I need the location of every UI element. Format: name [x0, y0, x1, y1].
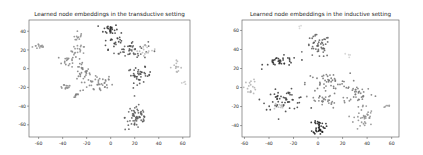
x-tick-label: -60 — [241, 141, 249, 146]
x-tick-label: 20 — [132, 141, 138, 146]
x-tick-label: 0 — [317, 141, 320, 146]
inductive-chart: Learned node embeddings in the inductive… — [212, 0, 423, 155]
y-tick-label: 40 — [233, 47, 239, 52]
y-tick-label: -60 — [18, 122, 26, 127]
x-tick-label: 60 — [389, 141, 395, 146]
x-tick-label: 60 — [180, 141, 186, 146]
x-tick-label: -20 — [290, 141, 298, 146]
y-tick-label: 40 — [20, 29, 26, 34]
x-tick-label: 40 — [156, 141, 162, 146]
inductive-scatter-plot: Learned node embeddings in the inductive… — [212, 0, 423, 155]
axes-frame — [29, 20, 190, 137]
chart-title: Learned node embeddings in the inductive… — [250, 11, 392, 18]
data-points — [243, 25, 390, 135]
y-tick-label: -20 — [18, 85, 26, 90]
y-tick-label: 0 — [236, 85, 239, 90]
chart-title: Learned node embeddings in the transduct… — [34, 11, 185, 18]
x-tick-label: 0 — [109, 141, 112, 146]
transductive-chart: Learned node embeddings in the transduct… — [0, 0, 212, 155]
x-tick-label: -40 — [265, 141, 273, 146]
y-tick-label: -40 — [231, 123, 239, 128]
y-tick-label: 0 — [23, 66, 26, 71]
x-tick-label: -20 — [83, 141, 91, 146]
axes-frame — [242, 20, 399, 137]
x-tick-label: -60 — [35, 141, 43, 146]
x-tick-label: 40 — [364, 141, 370, 146]
y-tick-label: 20 — [233, 66, 239, 71]
y-tick-label: -20 — [231, 104, 239, 109]
transductive-scatter-plot: Learned node embeddings in the transduct… — [0, 0, 212, 155]
y-tick-label: 20 — [20, 48, 26, 53]
x-tick-label: -40 — [59, 141, 67, 146]
x-tick-label: 20 — [340, 141, 346, 146]
y-tick-label: 60 — [233, 28, 239, 33]
y-tick-label: -40 — [18, 104, 26, 109]
data-points — [31, 24, 186, 130]
